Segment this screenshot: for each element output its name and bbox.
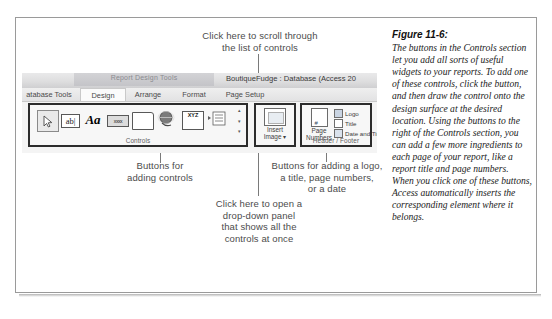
controls-gallery-scrollbar[interactable]: ▴ ▾ ▾	[236, 108, 243, 134]
ribbon-body: ab| Aa xxxx XYZ	[22, 101, 377, 153]
callout-drop-down-panel: Click here to open a drop-down panel tha…	[176, 198, 342, 244]
group-label-controls: Controls	[30, 137, 246, 144]
access-ribbon-screenshot: Report Design Tools BoutiqueFudge : Data…	[22, 73, 377, 153]
text-box-icon[interactable]: ab|	[61, 114, 80, 128]
tab-arrange[interactable]: Arrange	[125, 88, 171, 101]
unbound-object-frame-icon[interactable]: XYZ	[182, 111, 204, 130]
scroll-up-icon[interactable]: ▴	[238, 108, 241, 113]
title-label: Title	[345, 120, 356, 127]
figure-caption: Figure 11-6: The buttons in the Controls…	[392, 29, 532, 224]
contextual-tab-title: Report Design Tools	[74, 74, 214, 81]
figure-frame-shadow	[19, 294, 541, 297]
page-numbers-label-line1: Page	[312, 127, 327, 134]
group-label-header-footer: Header / Footer	[302, 137, 370, 144]
tab-database-tools[interactable]: atabase Tools	[22, 88, 80, 101]
tab-design[interactable]: Design	[80, 88, 126, 102]
callout-buttons-for-header-footer: Buttons for adding a logo, a title, page…	[248, 160, 406, 195]
insert-image-icon	[264, 108, 286, 126]
button-tool-icon[interactable]: xxxx	[107, 115, 129, 127]
list-box-icon[interactable]	[207, 110, 227, 128]
tab-control-icon[interactable]	[132, 112, 154, 130]
window-title-bar: Report Design Tools BoutiqueFudge : Data…	[22, 73, 377, 88]
gallery-more-icon[interactable]: ▾	[238, 129, 241, 134]
window-title: BoutiqueFudge : Database (Access 20	[226, 74, 356, 83]
logo-icon	[334, 109, 343, 118]
date-and-time-label: Date and Time	[345, 130, 377, 137]
group-controls: ab| Aa xxxx XYZ	[28, 103, 248, 147]
tab-format[interactable]: Format	[172, 88, 216, 101]
figure-caption-title: Figure 11-6:	[392, 29, 532, 41]
cursor-arrow-icon	[43, 115, 54, 128]
hyperlink-globe-icon[interactable]	[157, 110, 177, 128]
logo-label: Logo	[345, 110, 359, 117]
callout-scroll-through-controls: Click here to scroll through the list of…	[150, 30, 370, 53]
title-button[interactable]: Title	[334, 119, 356, 128]
insert-image-label-line2: Image ▾	[264, 133, 287, 140]
tab-page-setup[interactable]: Page Setup	[217, 88, 273, 101]
group-insert-image: Insert Image ▾	[254, 103, 296, 147]
group-header-footer: Page Numbers Logo Title Date and Time He…	[300, 103, 372, 147]
label-tool-icon[interactable]: Aa	[82, 110, 104, 130]
title-icon	[334, 119, 343, 128]
scroll-down-icon[interactable]: ▾	[238, 119, 241, 124]
figure-caption-body: The buttons in the Controls section let …	[392, 42, 532, 223]
insert-image-label-line1: Insert	[267, 126, 283, 133]
callout-buttons-for-adding-controls: Buttons for adding controls	[95, 160, 225, 183]
select-tool-icon[interactable]	[37, 110, 59, 132]
controls-gallery[interactable]: ab| Aa xxxx XYZ	[33, 107, 233, 135]
logo-button[interactable]: Logo	[334, 109, 359, 118]
insert-image-button[interactable]: Insert Image ▾	[256, 106, 294, 141]
page-numbers-icon	[311, 108, 328, 127]
